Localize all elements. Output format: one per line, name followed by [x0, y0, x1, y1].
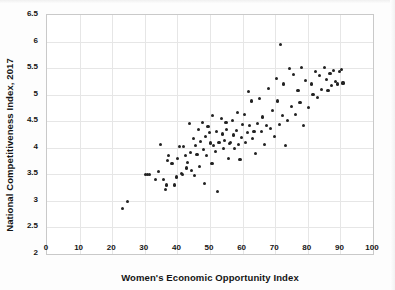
data-point	[198, 165, 201, 168]
y-tick-label: 4.5	[8, 115, 38, 124]
data-point	[214, 150, 217, 153]
data-point	[148, 173, 151, 176]
data-point	[192, 137, 195, 140]
data-point	[261, 115, 264, 118]
data-point	[159, 143, 162, 146]
data-point	[231, 119, 234, 122]
plot-area	[46, 14, 374, 255]
data-point	[185, 166, 188, 169]
data-point	[256, 122, 259, 125]
data-point	[318, 74, 321, 77]
data-point	[332, 69, 335, 72]
data-point	[194, 144, 197, 147]
data-point	[171, 162, 174, 165]
data-point	[175, 175, 178, 178]
data-point	[326, 89, 329, 92]
data-point	[205, 154, 208, 157]
data-point	[237, 143, 240, 146]
gridline-vertical	[210, 15, 211, 254]
data-point	[224, 121, 227, 124]
data-point	[240, 136, 243, 139]
data-point	[154, 178, 157, 181]
data-point	[271, 109, 274, 112]
data-point	[275, 77, 278, 80]
gridline-horizontal	[47, 227, 373, 228]
data-point	[222, 147, 225, 150]
gridline-vertical	[243, 15, 244, 254]
data-point	[202, 148, 205, 151]
data-point	[220, 117, 223, 120]
x-tick-label: 100	[357, 243, 387, 252]
gridline-vertical	[145, 15, 146, 254]
gridline-vertical	[340, 15, 341, 254]
data-point	[126, 200, 129, 203]
data-point	[265, 124, 268, 127]
data-point	[258, 97, 261, 100]
data-point	[195, 153, 198, 156]
data-point	[216, 190, 219, 193]
data-point	[296, 89, 299, 92]
data-point	[320, 88, 323, 91]
data-point	[247, 90, 250, 93]
data-point	[166, 159, 169, 162]
data-point	[269, 127, 272, 130]
data-point	[325, 78, 328, 81]
gridline-horizontal	[47, 174, 373, 175]
data-point	[286, 119, 289, 122]
data-point	[199, 140, 202, 143]
data-point	[288, 67, 291, 70]
y-tick-label: 2	[8, 248, 38, 257]
data-point	[292, 73, 295, 76]
data-point	[189, 151, 192, 154]
data-point	[316, 96, 319, 99]
gridline-horizontal	[47, 95, 373, 96]
data-point	[211, 114, 214, 117]
data-point	[186, 161, 189, 164]
data-point	[279, 43, 282, 46]
data-point	[167, 154, 170, 157]
data-point	[314, 70, 317, 73]
gridline-horizontal	[47, 42, 373, 43]
data-point	[210, 162, 213, 165]
y-tick-label: 6	[8, 36, 38, 45]
data-point	[173, 183, 176, 186]
data-point	[276, 99, 279, 102]
y-tick-label: 3	[8, 195, 38, 204]
data-point	[252, 130, 255, 133]
data-point	[248, 124, 251, 127]
x-tick-label: 90	[324, 243, 354, 252]
scan-edge-right	[390, 0, 395, 290]
data-point	[336, 82, 339, 85]
data-point	[307, 106, 310, 109]
data-point	[298, 101, 301, 104]
y-tick-label: 5.5	[8, 62, 38, 71]
y-tick-label: 5	[8, 89, 38, 98]
data-point	[235, 129, 238, 132]
data-point	[215, 130, 218, 133]
scatter-chart-figure: National Competitiveness Index, 2017 010…	[0, 0, 395, 290]
data-point	[181, 173, 184, 176]
data-point	[206, 125, 209, 128]
data-point	[232, 133, 235, 136]
data-point	[225, 128, 228, 131]
data-point	[229, 141, 232, 144]
data-point	[188, 122, 191, 125]
data-point	[328, 72, 331, 75]
data-point	[201, 121, 204, 124]
data-point	[238, 158, 241, 161]
x-tick-label: 80	[292, 243, 322, 252]
data-point	[223, 139, 226, 142]
data-point	[203, 182, 206, 185]
data-point	[121, 207, 124, 210]
x-tick-label: 50	[194, 243, 224, 252]
x-axis-title: Women's Economic Opportunity Index	[46, 272, 374, 283]
data-point	[244, 141, 247, 144]
data-point	[184, 154, 187, 157]
data-point	[267, 87, 270, 90]
y-tick-label: 4	[8, 142, 38, 151]
data-point	[260, 130, 263, 133]
data-point	[241, 123, 244, 126]
data-point	[282, 82, 285, 85]
gridline-vertical	[112, 15, 113, 254]
data-point	[311, 93, 314, 96]
